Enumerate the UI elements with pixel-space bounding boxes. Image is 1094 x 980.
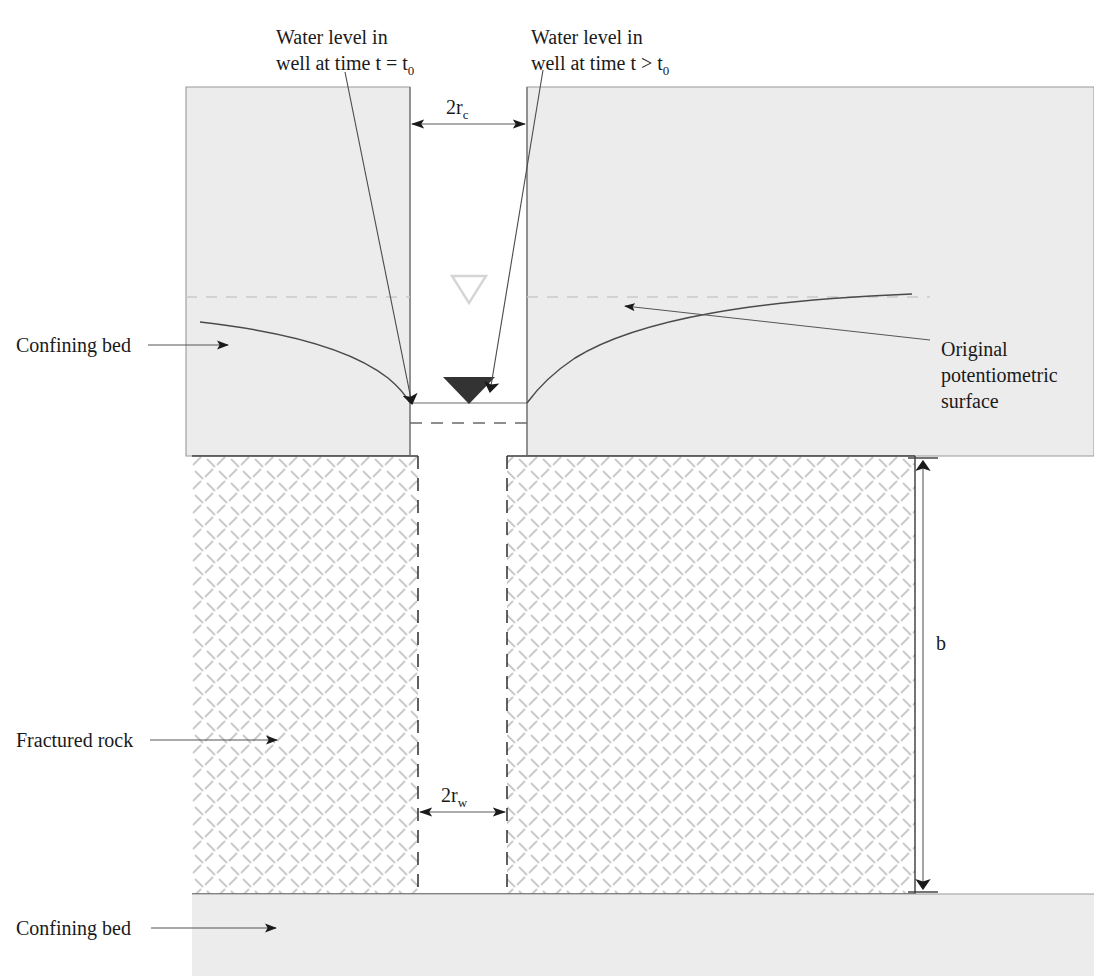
label-original-potentiometric-line2: potentiometric — [941, 364, 1058, 387]
upper-confining-bed-right-block — [527, 87, 1094, 456]
dimension-label-2rw: 2rw — [441, 784, 468, 810]
water-level-markers — [443, 276, 495, 404]
upper-confining-bed-left-block — [186, 87, 410, 456]
aquifer-right-block — [507, 456, 915, 894]
figure-canvas: 2rc 2rw b — [0, 0, 1094, 980]
label-confining-bed-bottom: Confining bed — [16, 917, 131, 940]
label-original-potentiometric-line1: Original — [941, 338, 1008, 361]
water-level-triangle-later — [443, 377, 495, 404]
water-level-triangle-initial — [452, 276, 486, 303]
label-water-level-later-line1: Water level in — [531, 26, 643, 48]
fractured-rock-aquifer — [192, 456, 915, 894]
dimension-well-diameter: 2rw — [420, 784, 505, 812]
lower-confining-bed — [192, 894, 1094, 976]
dimension-label-b: b — [936, 632, 946, 654]
label-confining-bed-top: Confining bed — [16, 334, 131, 357]
well-water-levels — [410, 403, 527, 423]
dimension-casing-diameter: 2rc — [412, 96, 525, 124]
lower-confining-bed-block — [192, 894, 1094, 976]
label-fractured-rock: Fractured rock — [16, 729, 133, 751]
well-screen — [418, 456, 507, 894]
aquifer-left-block — [192, 456, 418, 894]
label-water-level-initial-line1: Water level in — [276, 26, 388, 48]
label-original-potentiometric-line3: surface — [941, 390, 999, 412]
label-water-level-later-line2: well at time t > t0 — [531, 52, 669, 78]
cross-section-svg: 2rc 2rw b — [0, 0, 1094, 980]
label-water-level-initial: Water level in well at time t = t0 — [276, 26, 414, 78]
label-water-level-later: Water level in well at time t > t0 — [531, 26, 669, 78]
dimension-label-2rc: 2rc — [446, 96, 469, 122]
